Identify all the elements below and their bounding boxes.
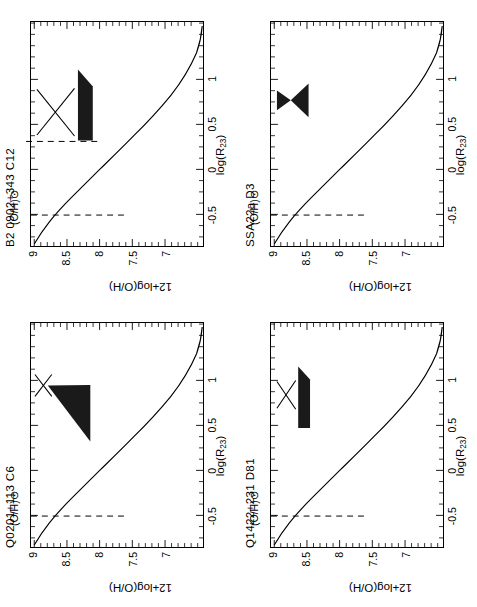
panel-0: B2 0902+343 C12 [0, 7, 232, 303]
ytick-label-3-0: 9 [267, 552, 279, 558]
ytick-label-0-0: 9 [27, 251, 39, 257]
ytick-label-0-3: 7.5 [127, 251, 139, 266]
plot-svg-0 [31, 22, 203, 246]
ytick-label-0-4: 7 [160, 251, 172, 257]
ytick-label-1-2: 8 [333, 251, 345, 257]
shaded-uncertainty-region-1 [277, 83, 309, 117]
plot-area-1 [270, 21, 444, 247]
yticks-major-1 [274, 22, 405, 246]
xticks-major-3 [271, 380, 443, 515]
ytick-label-1-4: 7 [400, 251, 412, 257]
yticks-minor-2 [41, 323, 198, 547]
yticks-minor-1 [281, 22, 438, 246]
xticks-major-2 [31, 380, 203, 515]
bowtie-lower-triangle-1 [291, 83, 309, 117]
ytick-label-3-4: 7 [400, 552, 412, 558]
calibration-curve-2 [34, 327, 202, 545]
yticks-minor-0 [41, 22, 198, 246]
panel-1: SSA22a D3 [240, 7, 472, 303]
shaded-uncertainty-region-2 [48, 385, 91, 441]
yticks-major-3 [274, 323, 405, 547]
ytick-label-0-2: 8 [93, 251, 105, 257]
ytick-label-2-3: 7.5 [127, 552, 139, 567]
ytick-label-2-0: 9 [27, 552, 39, 558]
xticks-major-0 [31, 79, 203, 214]
ytick-label-2-2: 8 [93, 552, 105, 558]
xticks-minor-3 [271, 324, 443, 538]
ytick-label-0-1: 8.5 [60, 251, 72, 266]
observed-cross-marker-0 [37, 88, 75, 136]
yticks-major-0 [34, 22, 165, 246]
plot-svg-1 [271, 22, 443, 246]
solar-abundance-label-2: (O/H)⊙ [8, 491, 20, 526]
ytick-labels-1: 9 8.5 8 7.5 7 [270, 251, 444, 303]
calibration-curve-0 [34, 26, 202, 244]
solar-abundance-label-3: (O/H)⊙ [248, 491, 260, 526]
x-axis-label-2: log(R23) [214, 308, 228, 604]
solar-abundance-label-1: (O/H)⊙ [248, 190, 260, 225]
ytick-labels-2: 9 8.5 8 7.5 7 [30, 552, 204, 604]
ytick-label-1-1: 8.5 [300, 251, 312, 266]
yticks-major-2 [34, 323, 165, 547]
ytick-label-3-2: 8 [333, 552, 345, 558]
x-axis-label-0: log(R23) [214, 7, 228, 303]
plot-svg-2 [31, 323, 203, 547]
plot-area-3 [270, 322, 444, 548]
y-axis-label-3: 12+log(O/H) [349, 582, 412, 594]
plot-area-0 [30, 21, 204, 247]
shaded-uncertainty-region-3 [298, 367, 310, 428]
y-axis-label-1: 12+log(O/H) [349, 281, 412, 293]
plot-area-2 [30, 322, 204, 548]
y-axis-label-0: 12+log(O/H) [109, 281, 172, 293]
observed-cross-marker-3 [277, 380, 296, 409]
calibration-curve-1 [274, 26, 442, 244]
xticks-minor-0 [31, 23, 203, 237]
plot-svg-3 [271, 323, 443, 547]
ytick-label-3-1: 8.5 [300, 552, 312, 567]
panel-3: Q1422+231 D81 [240, 308, 472, 604]
ytick-labels-3: 9 8.5 8 7.5 7 [270, 552, 444, 604]
x-axis-label-1: log(R23) [454, 7, 468, 303]
bowtie-upper-triangle-1 [277, 90, 291, 110]
ytick-label-1-3: 7.5 [367, 251, 379, 266]
ytick-label-2-1: 8.5 [60, 552, 72, 567]
figure-canvas: B2 0902+343 C12 [0, 0, 477, 607]
x-axis-label-3: log(R23) [454, 308, 468, 604]
panel-2: Q0201+113 C6 [0, 308, 232, 604]
y-axis-label-2: 12+log(O/H) [109, 582, 172, 594]
xticks-minor-1 [271, 23, 443, 237]
ytick-labels-0: 9 8.5 8 7.5 7 [30, 251, 204, 303]
calibration-curve-3 [274, 327, 442, 545]
solar-abundance-label-0: (O/H)⊙ [8, 190, 20, 225]
ytick-label-2-4: 7 [160, 552, 172, 558]
ytick-label-3-3: 7.5 [367, 552, 379, 567]
ytick-label-1-0: 9 [267, 251, 279, 257]
xticks-minor-2 [31, 324, 203, 538]
shaded-uncertainty-region-0 [78, 70, 93, 141]
yticks-minor-3 [281, 323, 438, 547]
